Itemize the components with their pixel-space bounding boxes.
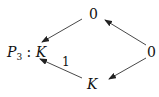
node-right: 0 (147, 45, 156, 59)
node-bottom: K (87, 77, 97, 91)
arrow-right-to-top (105, 20, 146, 45)
node-left: P3 : K (7, 45, 46, 59)
node-left-label: K (36, 44, 46, 60)
arrow-top-to-left (42, 19, 82, 42)
node-right-label: 0 (147, 44, 156, 60)
node-left-sep: : (22, 44, 36, 60)
edge-label-1: 1 (62, 55, 70, 69)
node-left-prefix: P (7, 44, 16, 60)
arrow-right-to-bottom (109, 58, 146, 79)
node-top: 0 (89, 7, 98, 21)
node-top-label: 0 (89, 6, 98, 22)
arrow-bottom-to-left (40, 59, 82, 78)
edge-label-text: 1 (62, 55, 70, 69)
node-bottom-label: K (87, 76, 97, 92)
